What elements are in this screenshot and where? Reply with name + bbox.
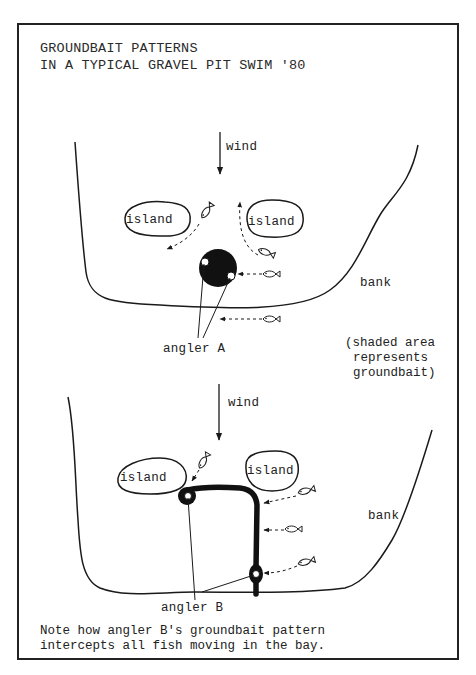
angler-a-label: angler A — [163, 342, 225, 356]
angler-b-label: angler B — [161, 601, 223, 615]
legend-line-3: groundbait) — [345, 366, 436, 381]
island-right-label-a: island — [248, 215, 295, 229]
island-left-label-b: island — [120, 471, 167, 485]
caption-line-1: Note how angler B's groundbait pattern — [40, 624, 325, 638]
fish-icon — [263, 271, 280, 277]
fish-icon — [200, 202, 215, 219]
bank-outline-b — [68, 397, 432, 594]
panel-b — [68, 384, 432, 600]
fish-icon — [263, 316, 280, 322]
island-left-label-a: island — [126, 213, 173, 227]
island-right-label-b: island — [247, 464, 294, 478]
fish-icon — [197, 452, 211, 470]
fish-icon — [297, 557, 315, 567]
caption-line-2: intercepts all fish moving in the bay. — [40, 639, 325, 653]
legend-line-1: (shaded area — [345, 336, 436, 351]
fish-icon — [285, 526, 302, 532]
dashed-arrow-icon — [264, 566, 297, 573]
angler-b-pointer-lines — [188, 498, 254, 600]
bank-label-a: bank — [360, 276, 391, 290]
panel-a — [75, 132, 418, 338]
wind-label-b: wind — [228, 396, 259, 410]
groundbait-legend-note: (shaded area represents groundbait) — [345, 336, 436, 381]
dashed-arrow-icon — [192, 470, 199, 481]
wind-label-a: wind — [226, 140, 257, 154]
fish-icon — [297, 486, 315, 496]
bank-label-b: bank — [368, 509, 399, 523]
legend-line-2: represents — [345, 351, 436, 366]
fish-icon — [257, 247, 275, 258]
figure-caption: Note how angler B's groundbait pattern i… — [40, 624, 325, 654]
groundbait-blob-icon — [199, 249, 237, 287]
dashed-arrow-icon — [264, 496, 296, 503]
